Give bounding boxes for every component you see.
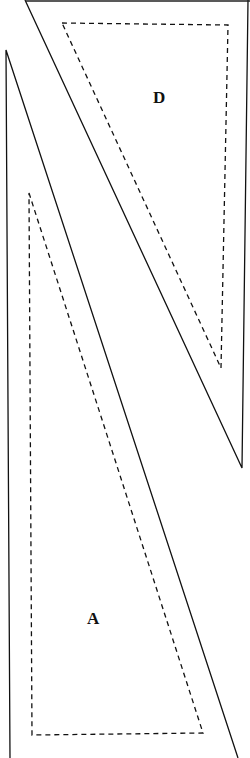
piece-d-cut-line	[25, 0, 248, 468]
piece-a-label: A	[87, 610, 99, 627]
piece-d-seam-line	[62, 23, 228, 368]
piece-a-seam-line	[29, 193, 203, 735]
pattern-drawing	[0, 0, 250, 758]
piece-d	[25, 0, 250, 468]
piece-a	[6, 50, 238, 758]
piece-d-label: D	[153, 89, 165, 106]
piece-a-cut-line	[6, 50, 238, 758]
pattern-sheet: D A	[0, 0, 250, 758]
